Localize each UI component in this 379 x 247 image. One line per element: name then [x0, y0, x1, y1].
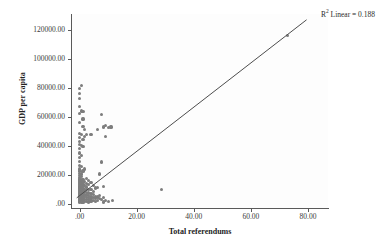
y-tick-label: 20000.00: [5, 170, 65, 179]
x-tick-label: 40.00: [170, 212, 218, 221]
x-tick-label: 80.00: [284, 212, 332, 221]
y-tick-label: 100000.00: [5, 54, 65, 63]
y-tick-label: 80000.00: [5, 83, 65, 92]
y-tick-mark: [68, 59, 71, 60]
plot-area: [71, 14, 328, 208]
r-squared-annotation: R2 Linear = 0.188: [321, 8, 375, 19]
x-tick-label: .00: [56, 212, 104, 221]
x-axis-line: [71, 208, 329, 209]
y-tick-mark: [68, 146, 71, 147]
data-point: [81, 110, 84, 113]
y-axis-title: GDP per capita: [18, 29, 27, 169]
x-axis-title: Total referendums: [71, 227, 329, 236]
data-point: [81, 117, 84, 120]
x-tick-label: 60.00: [227, 212, 275, 221]
y-tick-label: .00: [5, 199, 65, 208]
y-tick-label: 120000.00: [5, 25, 65, 34]
scatter-chart: .0020.0040.0060.0080.00 .0020000.0040000…: [0, 0, 379, 247]
data-point: [98, 172, 101, 175]
x-tick-label: 20.00: [113, 212, 161, 221]
y-tick-mark: [68, 30, 71, 31]
r-squared-text: Linear = 0.188: [329, 10, 375, 19]
data-point: [80, 172, 83, 175]
data-point: [92, 190, 95, 193]
y-tick-mark: [68, 204, 71, 205]
data-point: [96, 128, 99, 131]
data-point: [83, 167, 86, 170]
y-tick-mark: [68, 175, 71, 176]
data-point: [107, 200, 110, 203]
y-tick-mark: [68, 88, 71, 89]
y-tick-label: 60000.00: [5, 112, 65, 121]
y-tick-label: 40000.00: [5, 141, 65, 150]
data-point: [81, 138, 84, 141]
y-axis-line: [71, 14, 72, 208]
data-point: [109, 125, 112, 128]
data-point: [81, 145, 84, 148]
y-tick-mark: [68, 117, 71, 118]
data-point: [96, 186, 99, 189]
